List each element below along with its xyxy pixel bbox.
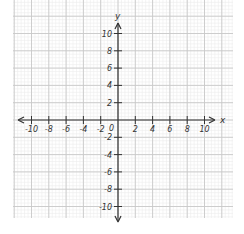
y-tick-label: 8 [107,47,112,56]
y-tick-label: -6 [104,168,112,177]
y-tick-label: 10 [102,30,112,39]
x-tick-label: 4 [150,125,155,134]
origin-label: 0 [109,124,114,133]
y-tick-label: -10 [99,203,112,212]
x-axis-label: x [219,115,226,125]
x-tick-label: -4 [79,125,87,134]
minor-grid [13,0,233,218]
x-tick-label: -10 [25,125,38,134]
major-grid [13,0,233,218]
y-axis-label: y [114,11,121,21]
x-tick-label: -6 [62,125,70,134]
x-tick-label: -8 [45,125,53,134]
y-tick-label: 2 [107,99,112,108]
y-tick-label: -8 [104,185,112,194]
axes [18,23,215,222]
x-tick-label: 8 [185,125,190,134]
x-tick-label: 2 [133,125,138,134]
coordinate-plane: -10-8-6-4-2246810108642-2-4-6-8-10 x y 0 [0,0,244,234]
x-tick-label: 10 [199,125,209,134]
y-tick-label: 6 [107,64,112,73]
x-tick-label: 6 [167,125,172,134]
y-tick-label: 4 [107,81,112,90]
y-tick-label: -4 [104,151,112,160]
y-tick-label: -2 [104,133,112,142]
